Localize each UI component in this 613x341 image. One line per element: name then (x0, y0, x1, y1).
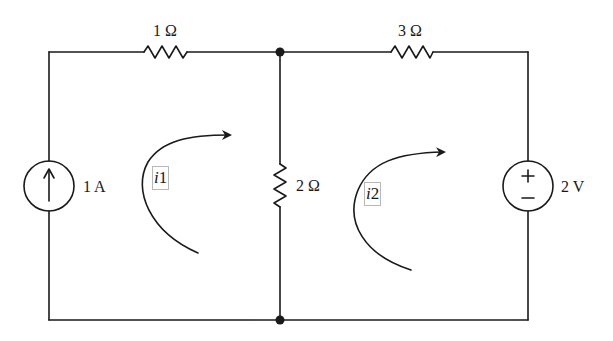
mesh-i1-arrow (142, 135, 229, 253)
junction-top (276, 48, 285, 57)
resistor-1ohm-label: 1 Ω (153, 23, 177, 39)
circuit-diagram (0, 0, 613, 341)
resistor-3ohm-label: 3 Ω (398, 23, 422, 39)
mesh-i2-subscript: 2 (371, 184, 380, 203)
mesh-i2-arrow (354, 152, 443, 270)
resistor-2ohm (274, 164, 286, 207)
voltage-source-symbol (503, 161, 553, 211)
resistor-1ohm (144, 46, 187, 58)
voltage-source-label: 2 V (561, 179, 584, 195)
mesh-i1-subscript: 1 (159, 168, 168, 187)
junction-bottom (276, 316, 285, 325)
resistor-3ohm (391, 46, 433, 58)
mesh-i1-label: i1 (152, 166, 169, 190)
resistor-2ohm-label: 2 Ω (296, 178, 320, 194)
plus-icon (522, 170, 534, 182)
current-source-label: 1 A (83, 179, 106, 195)
mesh-i2-label: i2 (364, 182, 381, 206)
